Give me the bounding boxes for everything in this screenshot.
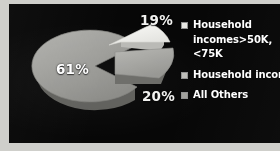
legend-item-incomes-50k-75k[interactable]: Household incomes>50K, <75K <box>181 18 280 62</box>
legend-swatch-all-others <box>181 92 188 99</box>
pie-label-19: 19% <box>140 12 173 28</box>
legend-swatch-incomes-75000 <box>181 72 188 79</box>
pie-slice-20-top <box>115 48 174 78</box>
legend-swatch-incomes-50k-75k <box>181 22 188 29</box>
pie-label-20: 20% <box>142 88 175 104</box>
legend-item-incomes-75000[interactable]: Household incomes>75000 <box>181 68 280 83</box>
chart-plot-area: 19% 20% 61% Household incomes>50K, <75K … <box>9 4 280 143</box>
scan-border-left <box>0 0 9 151</box>
pie-label-61: 61% <box>56 61 89 77</box>
pie-chart-screenshot: 19% 20% 61% Household incomes>50K, <75K … <box>0 0 280 151</box>
legend-label-all-others: All Others <box>193 88 280 103</box>
chart-legend: Household incomes>50K, <75K Household in… <box>181 18 280 109</box>
pie-slice-20 <box>115 48 174 84</box>
legend-label-incomes-75000: Household incomes>75000 <box>193 68 280 83</box>
legend-item-all-others[interactable]: All Others <box>181 88 280 103</box>
scan-border-bottom <box>0 143 280 151</box>
legend-label-incomes-50k-75k: Household incomes>50K, <75K <box>193 18 280 62</box>
